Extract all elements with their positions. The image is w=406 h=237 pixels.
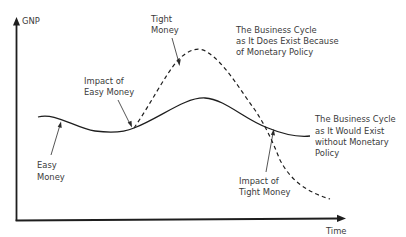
- annotation-impact-tight-money: Impact of Tight Money: [238, 176, 291, 197]
- svg-text:Policy: Policy: [315, 148, 339, 158]
- svg-text:as It Would Exist: as It Would Exist: [315, 126, 385, 136]
- annotation-impact-easy-money: Impact of Easy Money: [84, 76, 134, 97]
- svg-text:Tight: Tight: [150, 14, 173, 24]
- arrow-tight-money-head-icon: [177, 59, 181, 66]
- svg-text:Easy Money: Easy Money: [84, 87, 134, 97]
- svg-text:Money: Money: [151, 25, 179, 35]
- x-axis-label: Time: [325, 226, 347, 236]
- svg-text:as It Does Exist Because: as It Does Exist Because: [236, 36, 339, 46]
- svg-text:of Monetary Policy: of Monetary Policy: [236, 47, 313, 57]
- svg-text:Easy: Easy: [37, 160, 57, 170]
- x-axis-arrow-icon: [337, 215, 346, 222]
- svg-text:The Business Cycle: The Business Cycle: [314, 114, 396, 124]
- svg-text:Tight Money: Tight Money: [238, 187, 291, 197]
- pointer-arrows: [51, 38, 275, 172]
- business-cycle-diagram: GNP Time Tight Money The Business Cycle …: [0, 0, 406, 237]
- annotation-tight-money: Tight Money: [150, 14, 179, 35]
- svg-text:Impact of: Impact of: [239, 176, 280, 186]
- label-without-monetary-policy: The Business Cycle as It Would Exist wit…: [314, 114, 396, 158]
- arrow-impact-tight: [266, 133, 273, 172]
- annotation-easy-money: Easy Money: [37, 160, 65, 182]
- svg-text:The Business Cycle: The Business Cycle: [235, 25, 317, 35]
- arrow-impact-easy: [118, 100, 130, 124]
- arrow-impact-easy-head-icon: [128, 121, 132, 128]
- svg-text:Money: Money: [37, 172, 65, 182]
- arrow-tight-money: [172, 38, 179, 63]
- curve-without-monetary-policy: [38, 98, 310, 136]
- svg-text:without Monetary: without Monetary: [315, 137, 389, 147]
- y-axis-label: GNP: [22, 16, 40, 26]
- svg-text:Impact of: Impact of: [84, 76, 125, 86]
- x-axis: [16, 219, 339, 221]
- label-with-monetary-policy: The Business Cycle as It Does Exist Beca…: [235, 25, 339, 57]
- arrow-easy-money: [51, 125, 60, 155]
- curve-with-monetary-policy: [134, 49, 330, 199]
- arrow-easy-money-head-icon: [58, 122, 62, 129]
- y-axis-arrow-icon: [13, 17, 20, 26]
